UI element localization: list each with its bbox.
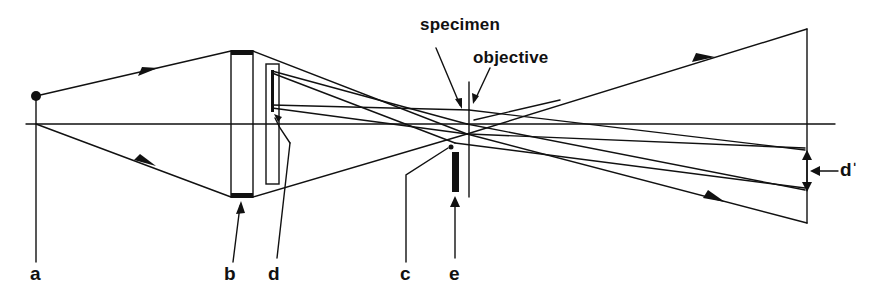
object-strip: [271, 70, 274, 112]
ray-img-3: [469, 134, 805, 148]
d-prime-down-arrow-icon: [802, 182, 812, 192]
lens-top-bar: [231, 50, 253, 55]
leader-objective: [475, 68, 490, 100]
ray-diverge-upper: [467, 29, 807, 134]
d-prime-up-arrow-icon: [802, 150, 812, 160]
ray-d-top-1: [272, 71, 467, 124]
diagram-canvas: [0, 0, 885, 300]
label-b: b: [224, 264, 236, 283]
ray-img-4: [455, 143, 805, 188]
arrow-source-upper-icon: [138, 67, 158, 76]
ray-d-mid-1: [272, 105, 469, 110]
label-c: c: [400, 264, 411, 283]
focal-point-dot: [449, 145, 454, 150]
leader-d-bend: [275, 118, 290, 143]
ray-img-5: [474, 100, 560, 120]
leader-c: [406, 148, 448, 262]
leader-specimen: [436, 48, 460, 105]
ray-diverge-lower: [467, 134, 807, 223]
ray-img-1: [469, 110, 805, 150]
point-source-dot: [31, 91, 41, 101]
label-d-prime: dˈ: [840, 160, 858, 179]
ray-source-lower: [36, 124, 231, 197]
ray-img-2: [467, 124, 805, 190]
label-objective: objective: [473, 49, 549, 66]
arrow-diverge-lower-icon: [703, 190, 725, 202]
leader-b: [233, 206, 240, 262]
label-d: d: [268, 264, 280, 283]
arrowhead-specimen-icon: [455, 98, 462, 109]
lens-bottom-bar: [231, 193, 253, 198]
label-a: a: [30, 264, 41, 283]
ray-outer-upper: [253, 51, 467, 134]
arrowhead-d-prime-icon: [810, 166, 820, 176]
optical-diagram: a b d c e dˈ specimen objective: [0, 0, 885, 300]
stop-bar: [452, 152, 459, 192]
arrowhead-b-icon: [236, 201, 245, 214]
label-specimen: specimen: [420, 16, 500, 33]
arrowhead-e-icon: [450, 196, 460, 207]
label-e: e: [449, 264, 460, 283]
ray-d-mid-2: [272, 108, 467, 134]
ray-source-upper: [36, 51, 231, 96]
